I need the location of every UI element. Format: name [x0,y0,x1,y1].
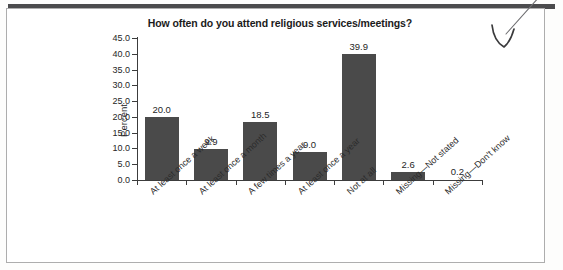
x-axis-tick [285,180,286,185]
x-axis-tick [334,180,335,185]
chart-title: How often do you attend religious servic… [100,17,460,29]
y-axis-tick-label: 25.0 [101,96,130,106]
x-axis-tick [433,180,434,185]
bar [342,54,376,180]
x-axis-tick [236,180,237,185]
bar-value-label: 2.6 [401,159,414,170]
bar-value-label: 39.9 [350,41,369,52]
bar-value-label: 20.0 [152,104,171,115]
y-axis-tick-label: 40.0 [101,49,130,59]
x-axis-tick [137,180,138,185]
y-axis-tick-label: 45.0 [101,33,130,43]
y-axis-tick-label: 20.0 [101,112,130,122]
bar-value-label: 18.5 [251,109,270,120]
y-axis-tick-label: 15.0 [101,128,130,138]
y-axis-tick-label: 10.0 [101,143,130,153]
y-axis-tick-label: 5.0 [101,159,130,169]
y-axis-tick-label: 0.0 [101,175,130,185]
figure-screenshot: How often do you attend religious servic… [0,0,563,270]
x-axis-tick [383,180,384,185]
x-axis-tick [186,180,187,185]
y-axis-tick-label: 30.0 [101,80,130,90]
x-axis-tick [482,180,483,185]
y-axis-tick-label: 35.0 [101,65,130,75]
